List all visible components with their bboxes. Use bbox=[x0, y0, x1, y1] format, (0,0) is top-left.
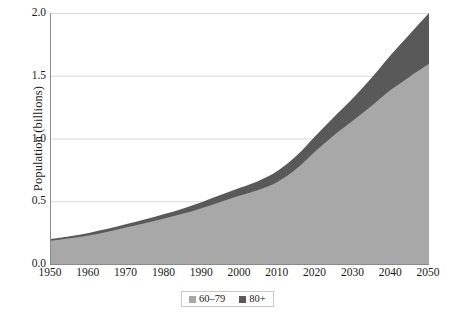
chart-figure: Population (billions) 0.00.51.01.52.0 19… bbox=[0, 0, 454, 317]
x-tick-label: 2010 bbox=[257, 267, 297, 279]
legend-label: 80+ bbox=[249, 294, 265, 305]
x-tick-label: 2050 bbox=[408, 267, 448, 279]
y-tick-label: 1.0 bbox=[18, 133, 46, 145]
x-axis-tick-labels: 1950196019701980199020002010202020302040… bbox=[50, 267, 428, 285]
chart-legend: 60–7980+ bbox=[181, 291, 274, 307]
legend-swatch-icon bbox=[239, 296, 246, 303]
legend-entry: 60–79 bbox=[189, 294, 225, 305]
x-tick-label: 1960 bbox=[68, 267, 108, 279]
x-tick-label: 2020 bbox=[295, 267, 335, 279]
y-tick-label: 1.5 bbox=[18, 70, 46, 82]
legend-swatch-icon bbox=[189, 296, 196, 303]
plot-area bbox=[50, 13, 429, 265]
x-tick-label: 1970 bbox=[106, 267, 146, 279]
x-tick-label: 2030 bbox=[332, 267, 372, 279]
x-tick-label: 2000 bbox=[219, 267, 259, 279]
x-tick-label: 1950 bbox=[30, 267, 70, 279]
y-tick-label: 0.5 bbox=[18, 195, 46, 207]
legend-entry: 80+ bbox=[239, 294, 265, 305]
legend-label: 60–79 bbox=[199, 294, 225, 305]
x-tick-label: 1990 bbox=[181, 267, 221, 279]
plot-svg bbox=[51, 13, 429, 264]
x-tick-label: 1980 bbox=[143, 267, 183, 279]
y-tick-label: 2.0 bbox=[18, 7, 46, 19]
x-tick-label: 2040 bbox=[370, 267, 410, 279]
